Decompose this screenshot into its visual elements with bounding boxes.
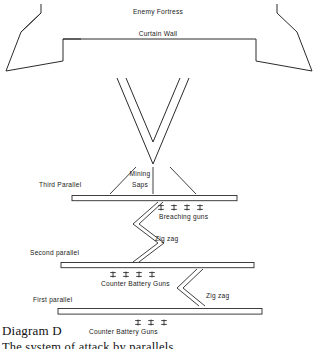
label-first-parallel: First parallel	[33, 296, 72, 304]
second-parallel-trench	[61, 263, 254, 268]
breaching-guns-symbols	[158, 205, 203, 211]
third-parallel-trench	[72, 196, 237, 201]
first-parallel-trench	[58, 309, 262, 315]
label-second-parallel: Second parallel	[30, 249, 79, 257]
label-third-parallel: Third Parallel	[39, 181, 81, 189]
caption-title: Diagram D	[2, 323, 62, 339]
mining-saps-chevron	[117, 78, 189, 164]
caption-subtitle: The system of attack by parallels	[2, 340, 242, 349]
label-enemy-fortress: Enemy Fortress	[133, 8, 183, 16]
label-breaching-guns: Breaching guns	[159, 213, 208, 221]
sap-approach-lines	[110, 167, 196, 194]
label-curtain-wall: Curtain Wall	[139, 30, 178, 38]
counter-battery-guns-second-symbols	[110, 272, 155, 278]
label-zig-zag-lower: Zig zag	[206, 292, 229, 300]
zigzag-lower-path	[177, 269, 205, 306]
label-zig-zag-upper: Zig zag	[155, 235, 178, 243]
diagram-page: Enemy Fortress Curtain Wall Third Parall…	[0, 0, 317, 349]
label-mining-saps-line1: Mining	[130, 170, 151, 178]
label-counter-battery-guns-second: Counter Battery Guns	[101, 280, 170, 288]
fortress-right-bastion	[256, 4, 312, 71]
zigzag-upper-path	[133, 202, 164, 262]
counter-battery-guns-first-symbols	[135, 320, 167, 326]
label-counter-battery-guns-first: Counter Battery Guns	[89, 328, 158, 336]
fortress-left-bastion	[6, 4, 81, 71]
label-mining-saps-line2: Saps	[132, 181, 148, 189]
